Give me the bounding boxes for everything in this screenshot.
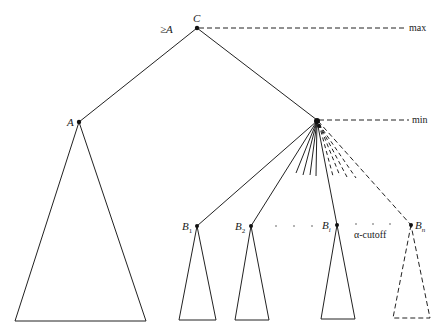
subtree-bn-pruned (393, 225, 430, 318)
node-bi-label: Bi (322, 219, 331, 234)
node-b1 (195, 224, 199, 228)
node-a-label: A (66, 116, 74, 128)
node-b2-label: B2 (235, 220, 246, 235)
min-level-label: min (412, 114, 428, 125)
subtree-a (15, 122, 146, 321)
pruned-edges (319, 124, 356, 178)
node-a (77, 120, 81, 124)
node-b1-label: B1 (182, 220, 193, 235)
node-bi (335, 223, 339, 227)
root-bound-label: ≥A (160, 23, 173, 35)
node-min (314, 118, 320, 124)
alpha-cutoff-label: α-cutoff (354, 229, 387, 240)
node-min-cluster (317, 124, 321, 128)
max-level-label: max (409, 22, 426, 33)
subtree-b2 (235, 226, 269, 320)
edge-min-b2 (251, 121, 317, 226)
edge-min-bi (317, 121, 337, 225)
ellipsis-dots (275, 223, 391, 227)
subtree-bi (321, 225, 355, 319)
edge-min-b1 (197, 121, 317, 226)
edge-c-a (79, 28, 197, 122)
node-bn (409, 223, 413, 227)
alpha-cutoff-tree-diagram: C ≥A max min A B1 B2 Bi Bn α-cutoff (0, 0, 448, 334)
subtree-b1 (179, 226, 216, 320)
node-b2 (249, 224, 253, 228)
edge-c-min (197, 28, 317, 120)
node-bn-label: Bn (415, 219, 426, 234)
node-c (195, 26, 199, 30)
node-c-label: C (193, 12, 201, 24)
